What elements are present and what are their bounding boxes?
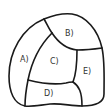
region-label-a: A) xyxy=(20,55,29,64)
divider-b-c xyxy=(52,33,102,50)
divider-d-e xyxy=(73,82,82,106)
region-label-d: D) xyxy=(44,89,53,98)
partition-diagram: A) B) C) D) E) xyxy=(0,0,107,110)
divider-c-e xyxy=(73,50,77,82)
region-label-e: E) xyxy=(83,67,91,76)
divider-c-d xyxy=(28,80,73,84)
region-label-c: C) xyxy=(50,57,59,66)
divider-a-b xyxy=(44,19,52,33)
region-label-b: B) xyxy=(65,29,74,38)
